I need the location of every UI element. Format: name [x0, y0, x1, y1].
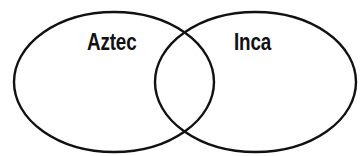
venn-ellipses [0, 0, 360, 156]
aztec-set-label: Aztec [87, 31, 136, 54]
inca-set-label: Inca [234, 31, 271, 54]
